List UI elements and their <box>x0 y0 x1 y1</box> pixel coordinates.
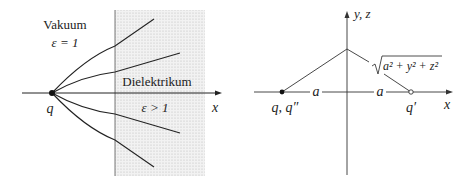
yz-axis-label: y, z <box>352 6 371 21</box>
dielectric-label: Dielektrikum <box>122 74 191 89</box>
x-axis-arrow-icon <box>446 90 453 95</box>
x-axis-arrow-icon <box>215 91 222 96</box>
left-x-axis-label: x <box>211 100 219 115</box>
distance-line-right-upper <box>347 49 369 62</box>
yz-axis-arrow-icon <box>345 11 350 18</box>
distance-a-right: a <box>377 84 384 99</box>
distance-formula: a² + y² + z² <box>383 59 438 73</box>
image-charge-q-prime-dot <box>409 90 413 94</box>
image-charge-q-prime-label: q′ <box>406 100 417 115</box>
charge-q-q2-label: q, q″ <box>272 100 299 115</box>
dielectric-epsilon-label: ε > 1 <box>142 100 169 115</box>
charge-q-label: q <box>47 101 54 116</box>
vacuum-label: Vakuum <box>43 17 86 32</box>
right-x-axis-label: x <box>443 97 451 112</box>
charge-q-dot <box>280 90 285 95</box>
figure: Vakuum ε = 1 Dielektrikum ε > 1 q x a² +… <box>0 0 471 185</box>
distance-a-left: a <box>313 84 320 99</box>
left-diagram: Vakuum ε = 1 Dielektrikum ε > 1 q x <box>22 10 222 176</box>
right-diagram: a² + y² + z² y, z a a q, q″ q′ x <box>254 6 453 175</box>
vacuum-epsilon-label: ε = 1 <box>52 35 79 50</box>
charge-q-dot <box>49 90 55 96</box>
distance-line-right-lower <box>384 74 411 92</box>
